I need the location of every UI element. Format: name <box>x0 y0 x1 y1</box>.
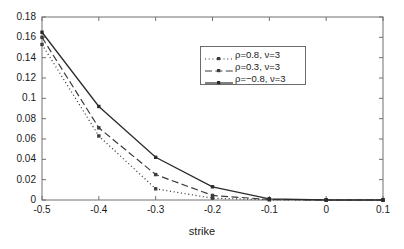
x-tick-label: 0 <box>306 205 346 215</box>
x-tick-label: -0.5 <box>22 205 62 215</box>
legend-swatch-solid <box>205 74 233 84</box>
x-tick-label: -0.4 <box>79 205 119 215</box>
y-tick-label: 0.08 <box>0 114 36 124</box>
x-tick-label: -0.3 <box>136 205 176 215</box>
legend-item: ρ=0.8, ν=3 <box>205 49 305 61</box>
y-tick-label: 0.14 <box>0 53 36 63</box>
legend-item: ρ=0.3, ν=3 <box>205 61 305 73</box>
y-tick-label: 0.16 <box>0 32 36 42</box>
x-tick-label: 0.1 <box>363 205 403 215</box>
y-tick-label: 0.18 <box>0 12 36 22</box>
x-tick-label: -0.2 <box>193 205 233 215</box>
y-tick-label: 0.1 <box>0 93 36 103</box>
y-tick-label: 0.12 <box>0 73 36 83</box>
legend-label: ρ=−0.8, ν=3 <box>235 74 286 84</box>
x-tick-label: -0.1 <box>249 205 289 215</box>
legend-item: ρ=−0.8, ν=3 <box>205 73 305 85</box>
y-tick-label: 0.02 <box>0 175 36 185</box>
y-tick-label: 0.06 <box>0 134 36 144</box>
legend-swatch-dashed <box>205 62 233 72</box>
legend-swatch-dotted <box>205 50 233 60</box>
x-axis-title: strike <box>0 225 404 237</box>
legend-label: ρ=0.3, ν=3 <box>235 62 280 72</box>
chart-figure: 00.020.040.060.080.10.120.140.160.18 -0.… <box>0 0 404 249</box>
y-tick-label: 0 <box>0 195 36 205</box>
legend-label: ρ=0.8, ν=3 <box>235 50 280 60</box>
plot-frame <box>42 17 383 200</box>
legend: ρ=0.8, ν=3 ρ=0.3, ν=3 ρ=−0.8, ν=3 <box>200 46 306 85</box>
axis-ticks <box>42 17 383 200</box>
y-tick-label: 0.04 <box>0 154 36 164</box>
